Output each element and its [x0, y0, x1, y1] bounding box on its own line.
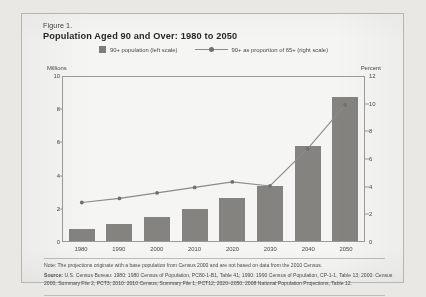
- right-tick-8: 8: [369, 128, 383, 134]
- source-body: U.S. Census Bureau: 1980: 1980 Census of…: [44, 272, 392, 285]
- legend-line-marker-icon: [195, 46, 228, 53]
- left-tick-0: 0: [46, 239, 60, 245]
- x-label-1980: 1980: [61, 246, 101, 252]
- right-tick-0: 0: [369, 239, 383, 245]
- note-text: Note: The projections originate with a b…: [44, 262, 404, 269]
- right-tickmark-10: [365, 103, 369, 104]
- right-axis-unit-label: Percent: [361, 65, 381, 71]
- right-tickmark-4: [365, 186, 369, 187]
- figure-notes: Note: The projections originate with a b…: [44, 262, 404, 287]
- line-series: [63, 76, 364, 241]
- right-tick-4: 4: [369, 184, 383, 190]
- bottom-divider: [44, 295, 385, 296]
- x-label-2020: 2020: [212, 246, 252, 252]
- x-label-2040: 2040: [288, 246, 328, 252]
- x-label-2030: 2030: [250, 246, 290, 252]
- legend-item-bar: 90+ population (left scale): [99, 46, 178, 53]
- right-tickmark-2: [365, 214, 369, 215]
- x-label-1990: 1990: [99, 246, 139, 252]
- chart-legend: 90+ population (left scale) 90+ as propo…: [22, 46, 405, 53]
- line-marker-1990: [118, 196, 122, 200]
- right-tick-12: 12: [369, 73, 383, 79]
- figure-title: Population Aged 90 and Over: 1980 to 205…: [43, 31, 237, 41]
- figure-panel: Figure 1. Population Aged 90 and Over: 1…: [21, 13, 404, 283]
- right-tick-2: 2: [369, 211, 383, 217]
- legend-item-line: 90+ as proportion of 65+ (right scale): [195, 46, 329, 53]
- source-text: Source: U.S. Census Bureau: 1980: 1980 C…: [44, 272, 404, 287]
- plot-frame: [62, 76, 365, 242]
- line-marker-1980: [80, 201, 84, 205]
- left-tick-10: 10: [46, 73, 60, 79]
- source-prefix: Source:: [44, 272, 63, 278]
- note-divider: [44, 258, 385, 259]
- left-tickmark-2: [58, 208, 62, 209]
- left-tickmark-6: [58, 142, 62, 143]
- x-label-2000: 2000: [137, 246, 177, 252]
- right-tick-10: 10: [369, 101, 383, 107]
- left-tickmark-8: [58, 109, 62, 110]
- right-tick-6: 6: [369, 156, 383, 162]
- left-tickmark-4: [58, 175, 62, 176]
- x-label-2010: 2010: [175, 246, 215, 252]
- line-marker-2050: [343, 103, 347, 107]
- right-tickmark-8: [365, 131, 369, 132]
- line-path: [82, 105, 345, 203]
- line-marker-2010: [193, 185, 197, 189]
- x-label-2050: 2050: [326, 246, 366, 252]
- plot-area: Millions Percent 02468100246810121980199…: [22, 64, 405, 260]
- legend-bar-label: 90+ population (left scale): [110, 47, 178, 53]
- line-marker-2000: [155, 191, 159, 195]
- line-marker-2030: [268, 184, 272, 188]
- figure-number: Figure 1.: [43, 21, 72, 30]
- legend-bar-swatch-icon: [99, 46, 106, 53]
- right-tickmark-6: [365, 159, 369, 160]
- left-axis-unit-label: Millions: [47, 65, 67, 71]
- legend-line-label: 90+ as proportion of 65+ (right scale): [232, 47, 329, 53]
- line-marker-2020: [230, 180, 234, 184]
- line-marker-2040: [306, 147, 310, 151]
